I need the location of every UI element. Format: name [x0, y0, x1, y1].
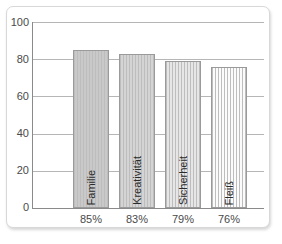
bar-label-familie: Familie — [85, 170, 97, 205]
gridline-100 — [32, 22, 264, 23]
y-tick-20: 20 — [17, 165, 29, 176]
y-tick-80: 80 — [17, 54, 29, 65]
bar-label-sicherheit: Sicherheit — [177, 156, 189, 205]
x-axis-line — [32, 208, 264, 209]
bar-label-fleiss: Fleiß — [223, 181, 235, 205]
x-tick-kreativitaet: 83% — [119, 213, 155, 225]
y-axis-line — [32, 22, 33, 209]
bar-familie[interactable]: Familie — [73, 50, 109, 208]
x-tick-sicherheit: 79% — [165, 213, 201, 225]
bar-kreativitaet[interactable]: Kreativität — [119, 54, 155, 208]
bar-fleiss[interactable]: Fleiß — [211, 67, 247, 208]
y-tick-60: 60 — [17, 91, 29, 102]
y-tick-40: 40 — [17, 128, 29, 139]
x-tick-familie: 85% — [73, 213, 109, 225]
plot-area: Familie Kreativität Sicherheit Fleiß 85%… — [32, 22, 264, 208]
chart-page: 100 80 60 40 20 0 Familie Kreativität — [0, 0, 282, 244]
x-tick-fleiss: 76% — [211, 213, 247, 225]
y-tick-0: 0 — [23, 202, 29, 213]
y-axis-tick-labels: 100 80 60 40 20 0 — [5, 22, 29, 208]
bar-label-kreativitaet: Kreativität — [131, 156, 143, 205]
y-tick-100: 100 — [11, 17, 29, 28]
bar-sicherheit[interactable]: Sicherheit — [165, 61, 201, 208]
chart-frame: 100 80 60 40 20 0 Familie Kreativität — [6, 6, 270, 228]
